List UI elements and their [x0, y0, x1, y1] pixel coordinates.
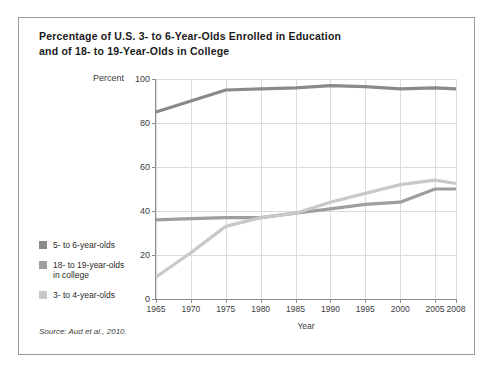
series-line — [156, 189, 456, 220]
series-line — [156, 86, 456, 112]
legend-label-text: 3- to 4-year-olds — [53, 290, 115, 300]
legend-label: 5- to 6-year-olds — [53, 240, 115, 251]
x-axis-line — [155, 299, 456, 300]
chart-title-line-2: and of 18- to 19-Year-Olds in College — [39, 44, 439, 59]
series-lines — [156, 79, 456, 299]
x-axis-tick-mark — [226, 299, 227, 303]
legend-label-text: 5- to 6-year-olds — [53, 240, 115, 250]
source-note: Source: Aud et al., 2010. — [39, 327, 127, 336]
y-axis-tick-mark — [152, 211, 156, 212]
x-axis-tick-mark — [330, 299, 331, 303]
x-axis-tick-mark — [400, 299, 401, 303]
plot-area — [156, 79, 456, 299]
legend-label-text: 18- to 19-year-olds — [53, 260, 124, 270]
legend-label: 18- to 19-year-olds in college — [53, 260, 124, 281]
x-axis-tick-mark — [191, 299, 192, 303]
y-axis-tick-mark — [152, 167, 156, 168]
legend-label: 3- to 4-year-olds — [53, 290, 115, 301]
x-axis-tick-label: 1990 — [321, 304, 340, 314]
y-axis-tick-label: 100 — [135, 74, 150, 84]
x-axis-tick-mark — [456, 299, 457, 303]
x-axis-tick-label: 1975 — [216, 304, 235, 314]
legend-item-5-to-6-year-olds: 5- to 6-year-olds — [39, 240, 159, 251]
legend-swatch-icon — [39, 241, 47, 249]
gridline-vertical — [456, 79, 457, 299]
y-axis-title: Percent — [93, 73, 124, 83]
legend-label-text-second-line: in college — [53, 270, 89, 280]
y-axis-tick-mark — [152, 79, 156, 80]
x-axis-tick-label: 2000 — [391, 304, 410, 314]
x-axis-tick-label: 1995 — [356, 304, 375, 314]
y-axis-tick-label: 60 — [140, 162, 150, 172]
x-axis-tick-mark — [435, 299, 436, 303]
x-axis-tick-label: 2005 — [426, 304, 445, 314]
x-axis-tick-label: 1980 — [251, 304, 270, 314]
x-axis-title: Year — [156, 321, 456, 331]
legend-item-18-to-19-year-olds-in-college: 18- to 19-year-olds in college — [39, 260, 159, 281]
legend-swatch-icon — [39, 291, 47, 299]
x-axis-tick-mark — [261, 299, 262, 303]
legend-item-3-to-4-year-olds: 3- to 4-year-olds — [39, 290, 159, 301]
x-axis-tick-label: 1970 — [181, 304, 200, 314]
chart-title: Percentage of U.S. 3- to 6-Year-Olds Enr… — [39, 29, 439, 59]
x-axis-tick-label: 2008 — [447, 304, 466, 314]
y-axis-tick-label: 80 — [140, 118, 150, 128]
chart-title-line-1: Percentage of U.S. 3- to 6-Year-Olds Enr… — [39, 29, 439, 44]
y-axis-tick-mark — [152, 123, 156, 124]
x-axis-tick-mark — [365, 299, 366, 303]
figure-panel: Percentage of U.S. 3- to 6-Year-Olds Enr… — [18, 17, 475, 355]
x-axis-tick-label: 1985 — [286, 304, 305, 314]
y-axis-tick-label: 40 — [140, 206, 150, 216]
x-axis-tick-labels: 1965197019751980198519901995200020052008 — [156, 304, 456, 318]
series-line — [156, 180, 456, 277]
x-axis-tick-mark — [296, 299, 297, 303]
chart-legend: 5- to 6-year-olds 18- to 19-year-olds in… — [39, 240, 159, 309]
legend-swatch-icon — [39, 261, 47, 269]
